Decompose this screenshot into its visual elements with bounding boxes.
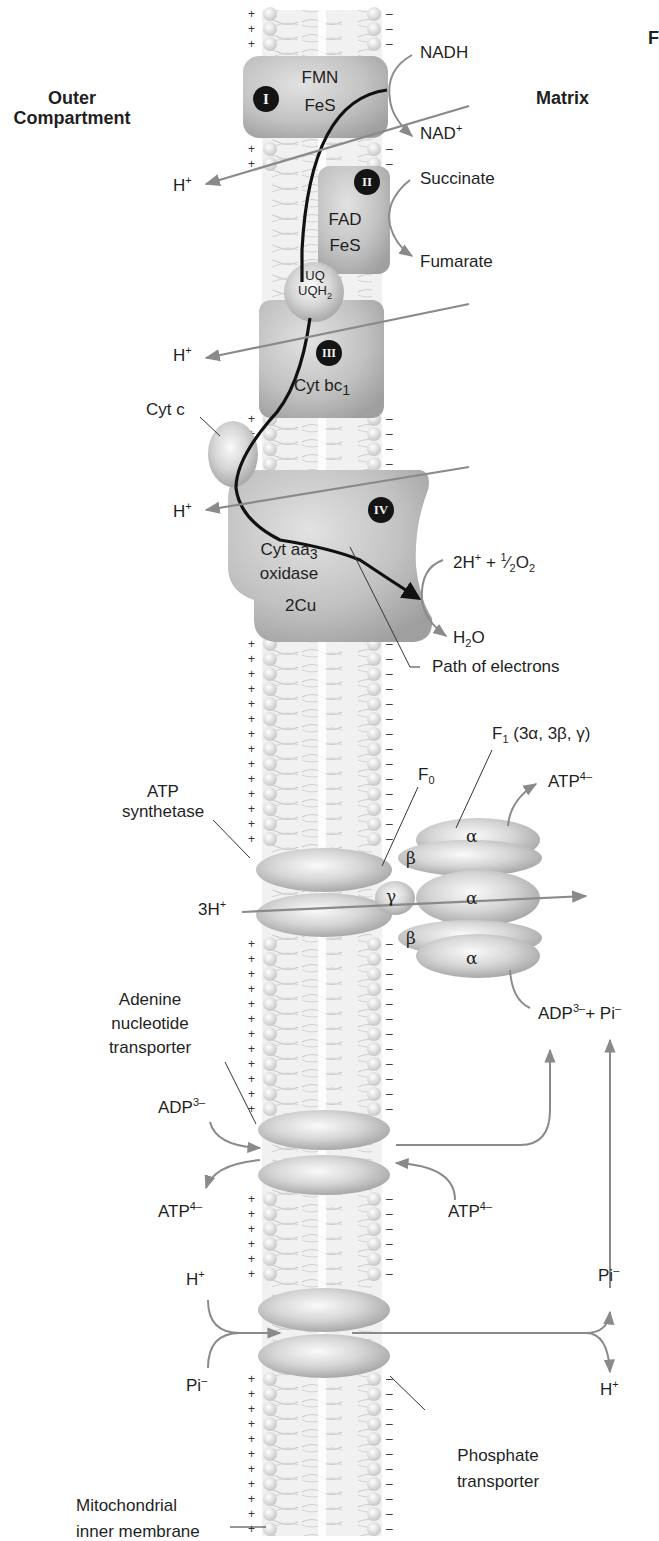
phosphate-pi-in-label: Pi– xyxy=(186,1376,207,1396)
ant-adp-label: ADP3– xyxy=(158,1098,205,1118)
path-of-electrons-label: Path of electrons xyxy=(432,657,560,677)
ant-upper xyxy=(258,1110,390,1150)
svg-text:+: + xyxy=(248,1252,255,1266)
f1-beta-bottom-label: β xyxy=(406,928,416,948)
f0-upper xyxy=(256,848,392,892)
phosphate-transporter-leader xyxy=(390,1376,425,1410)
svg-text:+: + xyxy=(248,1432,255,1446)
complex-ii-label: FAD FeS xyxy=(320,210,370,256)
complex-iii-label: Cyt bc1 xyxy=(294,376,350,400)
svg-text:+: + xyxy=(248,1267,255,1281)
phosphate-transporter-upper xyxy=(258,1288,390,1332)
complex-i-badge: I xyxy=(253,86,279,112)
svg-text:–: – xyxy=(386,37,393,51)
atp-out-label: ATP4– xyxy=(548,772,592,792)
svg-text:–: – xyxy=(386,967,393,981)
svg-text:+: + xyxy=(248,1192,255,1206)
complex-iv-label: Cyt aa3 oxidase xyxy=(244,540,334,584)
svg-text:–: – xyxy=(386,742,393,756)
svg-text:–: – xyxy=(386,1372,393,1386)
svg-text:–: – xyxy=(386,1252,393,1266)
svg-text:+: + xyxy=(248,1477,255,1491)
complex-iii-badge: III xyxy=(316,340,342,366)
svg-text:+: + xyxy=(248,937,255,951)
svg-text:–: – xyxy=(386,952,393,966)
svg-text:+: + xyxy=(248,1447,255,1461)
svg-text:+: + xyxy=(248,1462,255,1476)
svg-text:–: – xyxy=(386,802,393,816)
svg-text:–: – xyxy=(386,937,393,951)
svg-text:+: + xyxy=(248,1372,255,1386)
svg-text:–: – xyxy=(386,1492,393,1506)
svg-text:+: + xyxy=(248,7,255,21)
complex-iv-copper-label: 2Cu xyxy=(285,596,316,616)
svg-text:+: + xyxy=(248,817,255,831)
svg-text:+: + xyxy=(248,757,255,771)
svg-text:–: – xyxy=(386,427,393,441)
svg-text:–: – xyxy=(386,1087,393,1101)
svg-text:–: – xyxy=(386,1237,393,1251)
svg-text:–: – xyxy=(386,817,393,831)
svg-text:+: + xyxy=(248,412,255,426)
svg-text:–: – xyxy=(386,1027,393,1041)
svg-text:–: – xyxy=(386,1222,393,1236)
cytochrome-c xyxy=(208,421,258,487)
svg-text:+: + xyxy=(248,982,255,996)
svg-text:–: – xyxy=(386,667,393,681)
matrix-label: Matrix xyxy=(536,88,589,108)
svg-text:+: + xyxy=(248,652,255,666)
svg-text:+: + xyxy=(248,967,255,981)
svg-text:+: + xyxy=(248,997,255,1011)
svg-text:+: + xyxy=(248,1012,255,1026)
f1-alpha-top-label: α xyxy=(466,826,477,846)
h-out-arrow xyxy=(586,1333,610,1372)
svg-text:+: + xyxy=(248,697,255,711)
edge-fragment-label: F xyxy=(648,28,659,48)
svg-text:–: – xyxy=(386,142,393,156)
svg-text:–: – xyxy=(386,1042,393,1056)
svg-text:–: – xyxy=(386,7,393,21)
svg-text:–: – xyxy=(386,982,393,996)
ant-atp-out-label: ATP4– xyxy=(158,1202,202,1222)
svg-text:–: – xyxy=(386,1192,393,1206)
ant-atp-in-label: ATP4– xyxy=(448,1202,492,1222)
svg-text:+: + xyxy=(248,1057,255,1071)
svg-text:+: + xyxy=(248,1207,255,1221)
svg-text:+: + xyxy=(248,1387,255,1401)
svg-text:–: – xyxy=(386,1102,393,1116)
atp-from-matrix-arrow xyxy=(396,1163,455,1200)
adp-in-arrow xyxy=(210,1122,260,1148)
svg-text:–: – xyxy=(386,1477,393,1491)
oxygen-label: 2H+ + 1⁄2O2 xyxy=(453,553,535,573)
svg-text:–: – xyxy=(386,652,393,666)
svg-text:+: + xyxy=(248,1492,255,1506)
svg-text:+: + xyxy=(248,952,255,966)
svg-text:–: – xyxy=(386,772,393,786)
f1-label: F1 (3α, 3β, γ) xyxy=(492,724,590,744)
succinate-arrow xyxy=(389,180,412,256)
svg-text:+: + xyxy=(248,772,255,786)
complex-i-label: FMN FeS xyxy=(290,68,350,116)
atp-synthase-label: ATP synthetase xyxy=(108,782,218,822)
atp-synthase-leader xyxy=(213,820,250,858)
pi-in-arrow xyxy=(208,1333,240,1368)
svg-text:–: – xyxy=(386,1417,393,1431)
svg-text:–: – xyxy=(386,1432,393,1446)
phosphate-transporter-lower xyxy=(258,1334,390,1378)
three-proton-label: 3H+ xyxy=(198,900,226,920)
f0-label: F0 xyxy=(418,765,435,785)
cytc-leader xyxy=(200,417,220,436)
phosphate-h-in-label: H+ xyxy=(186,1270,205,1290)
nad-label: NAD+ xyxy=(420,124,462,144)
complex-ii-badge: II xyxy=(354,169,380,195)
svg-text:–: – xyxy=(386,1462,393,1476)
svg-text:–: – xyxy=(386,412,393,426)
svg-text:+: + xyxy=(248,1042,255,1056)
water-label: H2O xyxy=(453,628,485,648)
svg-text:–: – xyxy=(386,997,393,1011)
svg-text:+: + xyxy=(248,1072,255,1086)
svg-text:–: – xyxy=(386,1267,393,1281)
svg-text:+: + xyxy=(248,1027,255,1041)
phosphate-out-line xyxy=(352,1312,610,1333)
proton-label-complex-i: H+ xyxy=(173,176,192,196)
